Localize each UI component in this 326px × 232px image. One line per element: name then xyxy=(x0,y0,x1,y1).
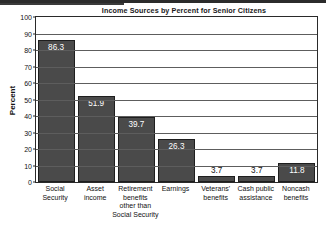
y-axis-tick-label: 90 xyxy=(10,30,32,37)
y-axis-tick-label: 40 xyxy=(10,113,32,120)
x-axis-category-label-line: Social Security xyxy=(111,211,159,220)
y-axis-tick-mark xyxy=(33,33,36,34)
y-axis-tick-label: 100 xyxy=(10,14,32,21)
plot-area: 86.351.939.726.33.73.711.8 1009080706050… xyxy=(35,16,318,183)
gridline xyxy=(36,149,317,150)
y-axis-tick-mark xyxy=(33,182,36,183)
bar-value-label: 3.7 xyxy=(238,166,275,175)
bar-value-label: 39.7 xyxy=(118,120,155,129)
x-axis-category-labels: SocialSecurityAssetincomeRetirementbenef… xyxy=(35,185,318,232)
x-axis-category-label: Noncashbenefits xyxy=(272,185,320,202)
y-axis-tick-label: 10 xyxy=(10,162,32,169)
y-axis-tick-label: 20 xyxy=(10,146,32,153)
y-axis-tick-label: 30 xyxy=(10,129,32,136)
y-axis-tick-mark xyxy=(33,132,36,133)
gridline xyxy=(36,67,317,68)
bar-value-label: 3.7 xyxy=(198,166,235,175)
y-axis-tick-mark xyxy=(33,116,36,117)
gridline xyxy=(36,100,317,101)
y-axis-tick-label: 70 xyxy=(10,63,32,70)
chart-page: Income Sources by Percent for Senior Cit… xyxy=(0,0,326,232)
x-axis-category-label-line: Noncash xyxy=(272,185,320,194)
gridline xyxy=(36,83,317,84)
y-axis-tick-mark xyxy=(33,165,36,166)
y-axis-tick-mark xyxy=(33,83,36,84)
y-axis-tick-mark xyxy=(33,149,36,150)
x-axis-category-label-line: benefits xyxy=(272,194,320,203)
gridline xyxy=(36,133,317,134)
x-axis-category-label-line: benefits xyxy=(111,194,159,203)
y-axis-tick-mark xyxy=(33,17,36,18)
gridline xyxy=(36,50,317,51)
x-axis-category-label-line: other than xyxy=(111,202,159,211)
bar[interactable] xyxy=(198,176,235,182)
y-axis-tick-mark xyxy=(33,50,36,51)
bar[interactable] xyxy=(38,40,75,182)
y-axis-tick-label: 50 xyxy=(10,96,32,103)
y-axis-tick-label: 80 xyxy=(10,47,32,54)
gridline xyxy=(36,116,317,117)
y-axis-tick-label: 0 xyxy=(10,179,32,186)
bar[interactable] xyxy=(78,96,115,182)
gridline xyxy=(36,166,317,167)
bar-value-label: 51.9 xyxy=(78,99,115,108)
y-axis-tick-mark xyxy=(33,99,36,100)
bar-value-label: 11.8 xyxy=(278,166,315,175)
page-top-rule-secondary xyxy=(0,3,124,5)
chart-title: Income Sources by Percent for Senior Cit… xyxy=(48,6,320,15)
gridline xyxy=(36,34,317,35)
y-axis-tick-label: 60 xyxy=(10,80,32,87)
bar[interactable] xyxy=(238,176,275,182)
y-axis-tick-mark xyxy=(33,66,36,67)
